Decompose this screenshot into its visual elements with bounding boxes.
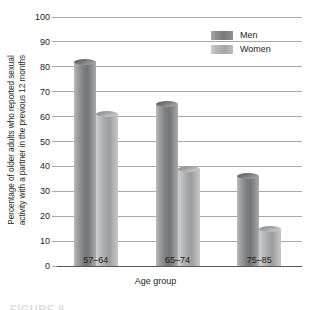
bar-body (96, 114, 118, 266)
legend-swatch-men-icon (211, 31, 233, 40)
bar-men-57-64 (74, 59, 96, 266)
bar-men-75-85 (237, 173, 259, 266)
y-axis-tick-label: 80 (40, 62, 50, 72)
x-axis-tick-label: 57–64 (83, 255, 108, 265)
y-axis-tick-label: 90 (40, 37, 50, 47)
y-axis-tick (52, 17, 57, 18)
bar-body (156, 104, 178, 266)
y-axis-title: Percentage of older adults who reported … (6, 15, 36, 265)
bar-cap-ellipse (178, 166, 200, 172)
y-axis-tick (52, 191, 57, 192)
y-axis-tick-label: 100 (35, 12, 50, 22)
x-axis-tick-label: 75–85 (247, 255, 272, 265)
y-axis-tick (52, 216, 57, 217)
legend-label-men: Men (240, 30, 258, 40)
y-axis-tick-label: 10 (40, 236, 50, 246)
y-axis-tick (52, 241, 57, 242)
chart-legend: Men Women (211, 28, 306, 56)
y-axis-tick (52, 41, 57, 42)
x-axis-tick-label: 65–74 (165, 255, 190, 265)
y-axis-tick (52, 66, 57, 67)
bar-cap-ellipse (156, 101, 178, 107)
y-axis-title-line2: activity with a partner in the previous … (17, 15, 28, 265)
y-axis-tick-label: 40 (40, 161, 50, 171)
y-axis-tick (52, 166, 57, 167)
legend-swatch-women-icon (211, 45, 233, 54)
legend-item-women: Women (211, 42, 306, 56)
gridline (57, 17, 302, 18)
y-axis-tick-label: 60 (40, 112, 50, 122)
x-axis-title: Age group (0, 276, 311, 286)
y-axis-tick (52, 141, 57, 142)
bar-women-65-74 (178, 166, 200, 266)
bar-cap-ellipse (74, 59, 96, 65)
bar-body (178, 169, 200, 266)
y-axis-title-line1: Percentage of older adults who reported … (6, 15, 17, 265)
bar-cap-ellipse (259, 226, 281, 232)
y-axis-tick-label: 70 (40, 87, 50, 97)
bar-body (74, 62, 96, 266)
legend-item-men: Men (211, 28, 306, 42)
y-axis-tick (52, 116, 57, 117)
bar-men-65-74 (156, 101, 178, 266)
y-axis-tick-label: 20 (40, 211, 50, 221)
bar-body (237, 176, 259, 266)
y-axis-tick (52, 91, 57, 92)
y-axis-tick-label: 30 (40, 186, 50, 196)
legend-label-women: Women (240, 44, 271, 54)
y-axis-tick (52, 266, 57, 267)
bar-women-57-64 (96, 111, 118, 266)
y-axis-tick-label: 50 (40, 137, 50, 147)
y-axis-tick-label: 0 (45, 261, 50, 271)
figure-caption-clipped: FIGURE 8 (10, 303, 65, 310)
